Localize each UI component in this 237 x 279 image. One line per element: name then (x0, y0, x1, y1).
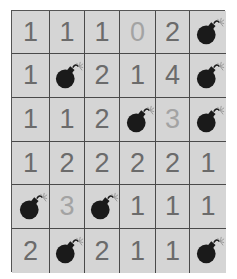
cell-number[interactable]: 3 (156, 98, 190, 142)
cell-value: 1 (94, 17, 109, 48)
cell-number[interactable]: 1 (85, 11, 120, 54)
cell-number[interactable]: 1 (12, 54, 50, 98)
cell-number[interactable]: 3 (50, 185, 85, 229)
bomb-icon (54, 236, 84, 266)
cell-value: 1 (165, 191, 180, 222)
cell-value: 1 (165, 236, 180, 267)
cell-number[interactable]: 1 (12, 11, 50, 54)
cell-number[interactable]: 1 (12, 142, 50, 185)
cell-number[interactable]: 4 (156, 54, 190, 98)
cell-number[interactable]: 1 (50, 11, 85, 54)
bomb-icon (195, 105, 225, 135)
cell-number[interactable]: 2 (156, 142, 190, 185)
cell-value: 1 (23, 17, 38, 48)
cell-number[interactable]: 2 (120, 142, 156, 185)
cell-number[interactable]: 1 (50, 98, 85, 142)
cell-value: 1 (200, 148, 215, 179)
cell-value: 1 (59, 104, 74, 135)
cell-bomb[interactable] (85, 185, 120, 229)
cell-value: 0 (130, 17, 145, 48)
cell-bomb[interactable] (190, 98, 226, 142)
cell-number[interactable]: 2 (85, 98, 120, 142)
cell-number[interactable]: 1 (156, 185, 190, 229)
cell-number[interactable]: 1 (120, 229, 156, 273)
cell-value: 2 (23, 236, 38, 267)
cell-number[interactable]: 2 (85, 229, 120, 273)
cell-value: 1 (59, 17, 74, 48)
cell-number[interactable]: 1 (156, 229, 190, 273)
cell-bomb[interactable] (190, 11, 226, 54)
cell-number[interactable]: 2 (85, 142, 120, 185)
cell-value: 2 (94, 148, 109, 179)
minesweeper-board: 11102 1 214 (11, 10, 225, 272)
cell-value: 1 (130, 60, 145, 91)
cell-number[interactable]: 1 (190, 185, 226, 229)
cell-value: 1 (23, 60, 38, 91)
cell-number[interactable]: 1 (190, 142, 226, 185)
bomb-icon (54, 61, 84, 91)
bomb-icon (195, 61, 225, 91)
bomb-icon (195, 236, 225, 266)
cell-number[interactable]: 0 (120, 11, 156, 54)
cell-value: 1 (23, 104, 38, 135)
cell-value: 1 (130, 191, 145, 222)
bomb-icon (89, 192, 119, 222)
cell-number[interactable]: 2 (12, 229, 50, 273)
cell-value: 2 (94, 60, 109, 91)
bomb-icon (195, 17, 225, 47)
cell-number[interactable]: 2 (50, 142, 85, 185)
cell-value: 2 (94, 236, 109, 267)
cell-value: 4 (165, 60, 180, 91)
cell-value: 2 (59, 148, 74, 179)
cell-value: 2 (130, 148, 145, 179)
cell-bomb[interactable] (190, 229, 226, 273)
cell-bomb[interactable] (50, 229, 85, 273)
cell-value: 1 (200, 191, 215, 222)
cell-number[interactable]: 2 (156, 11, 190, 54)
cell-value: 1 (130, 236, 145, 267)
cell-bomb[interactable] (190, 54, 226, 98)
cell-number[interactable]: 1 (120, 185, 156, 229)
cell-value: 2 (94, 104, 109, 135)
cell-number[interactable]: 1 (12, 98, 50, 142)
cell-value: 1 (23, 148, 38, 179)
cell-bomb[interactable] (50, 54, 85, 98)
cell-value: 3 (59, 191, 74, 222)
cell-value: 2 (165, 148, 180, 179)
cell-number[interactable]: 1 (120, 54, 156, 98)
cell-value: 2 (165, 17, 180, 48)
cell-bomb[interactable] (12, 185, 50, 229)
bomb-icon (125, 105, 155, 135)
cell-bomb[interactable] (120, 98, 156, 142)
bomb-icon (18, 192, 48, 222)
cell-number[interactable]: 2 (85, 54, 120, 98)
cell-value: 3 (165, 104, 180, 135)
